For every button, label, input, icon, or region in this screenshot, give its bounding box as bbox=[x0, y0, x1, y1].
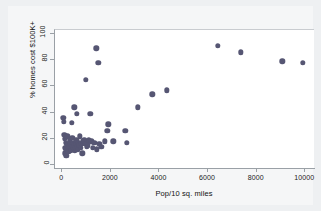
x-axis-tick-mark bbox=[207, 168, 208, 172]
scatter-point bbox=[61, 119, 66, 124]
y-axis-title: % homes cost $100K+ bbox=[28, 0, 37, 130]
y-axis-tick-mark bbox=[50, 59, 54, 60]
scatter-point bbox=[102, 139, 107, 144]
scatter-point bbox=[96, 60, 101, 65]
y-axis-tick-mark bbox=[50, 85, 54, 86]
scatter-point bbox=[149, 92, 154, 97]
y-axis-tick-label: 0 bbox=[8, 159, 48, 166]
x-axis-tick-label: 8000 bbox=[248, 174, 264, 181]
scatter-point bbox=[300, 60, 305, 65]
figure-inner-panel: 020406080100 0200040006000800010000 % ho… bbox=[8, 6, 313, 205]
scatter-point bbox=[83, 77, 88, 82]
scatter-plot-area bbox=[55, 30, 314, 168]
x-axis-tick-mark bbox=[61, 168, 62, 172]
scatter-point bbox=[215, 43, 220, 48]
y-axis-tick-mark bbox=[50, 112, 54, 113]
scatter-point bbox=[238, 50, 243, 55]
x-axis-tick-mark bbox=[304, 168, 305, 172]
scatter-point bbox=[69, 120, 74, 125]
x-axis-tick-label: 2000 bbox=[102, 174, 118, 181]
scatter-point bbox=[80, 151, 85, 156]
scatter-point bbox=[98, 144, 103, 149]
scatter-point bbox=[111, 139, 116, 144]
x-axis-tick-label: 0 bbox=[59, 174, 63, 181]
plot-frame bbox=[54, 29, 314, 168]
scatter-point bbox=[135, 105, 140, 110]
scatter-point bbox=[88, 111, 93, 116]
scatter-point bbox=[279, 59, 284, 64]
y-axis-tick-mark bbox=[50, 164, 54, 165]
scatter-point bbox=[123, 128, 128, 133]
x-axis-title: Pop/10 sq. miles bbox=[54, 189, 314, 198]
scatter-point bbox=[94, 46, 99, 51]
x-axis-tick-mark bbox=[256, 168, 257, 172]
y-axis-tick-label: 20 bbox=[8, 133, 48, 140]
x-axis-tick-label: 10000 bbox=[294, 174, 314, 181]
x-axis-tick-label: 6000 bbox=[199, 174, 215, 181]
figure-container: 020406080100 0200040006000800010000 % ho… bbox=[0, 0, 321, 211]
scatter-point bbox=[105, 128, 110, 133]
x-axis-tick-label: 4000 bbox=[150, 174, 166, 181]
scatter-point bbox=[72, 105, 77, 110]
x-axis-line bbox=[54, 168, 315, 169]
scatter-point bbox=[74, 111, 79, 116]
scatter-point bbox=[106, 122, 111, 127]
y-axis-tick-mark bbox=[50, 138, 54, 139]
y-axis-tick-mark bbox=[50, 33, 54, 34]
x-axis-tick-mark bbox=[110, 168, 111, 172]
scatter-point bbox=[124, 140, 129, 145]
scatter-point bbox=[164, 88, 169, 93]
x-axis-tick-mark bbox=[158, 168, 159, 172]
